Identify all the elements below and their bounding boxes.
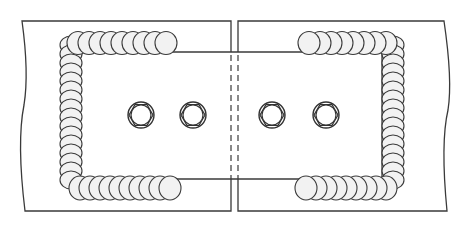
splice-joint-diagram: Bolted and welded splice (cover) plate j…: [0, 0, 461, 228]
bolt-icon: [180, 102, 206, 128]
bolt-icon: [259, 102, 285, 128]
bolt-icon: [128, 102, 154, 128]
bolt-icon: [313, 102, 339, 128]
diagram-canvas: [0, 0, 461, 228]
